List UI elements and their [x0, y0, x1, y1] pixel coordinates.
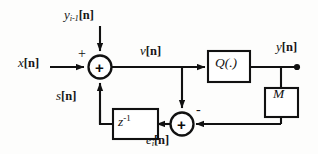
signal-label-dither: yi-1[n]	[64, 8, 94, 22]
wire-delay-to-sum	[100, 110, 113, 124]
bottom-adder-plus-symbol: +	[177, 117, 186, 132]
delay-block-label: z-1	[118, 114, 131, 128]
signal-label-error: ei[n]	[146, 133, 169, 147]
top-adder-plus-symbol: +	[95, 60, 104, 75]
quantizer-block-label: Q(.)	[215, 56, 237, 70]
diagram-wires	[0, 0, 318, 154]
feedback-sign-minus: -	[196, 103, 201, 117]
signal-label-input: x[n]	[18, 56, 39, 70]
signal-label-output: y[n]	[276, 40, 297, 54]
gain-block-label: M	[273, 87, 284, 101]
signal-label-feedback: s[n]	[56, 89, 76, 103]
block-diagram-canvas: yi-1[n] x[n] v[n] y[n] s[n] ei[n] + - Q(…	[0, 0, 318, 154]
signal-label-presum: v[n]	[140, 44, 161, 58]
output-terminal-dot	[294, 64, 300, 70]
input-sign-plus: +	[78, 47, 86, 61]
